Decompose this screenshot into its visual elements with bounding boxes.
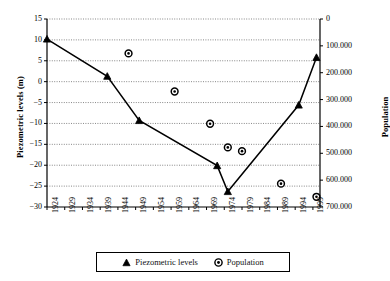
circle-marker-center [227, 146, 230, 149]
right-axis-tick-label: 100.000 [326, 41, 352, 50]
left-axis-tick-label: −25 [11, 181, 42, 190]
circle-marker-center [209, 122, 212, 125]
right-axis-tick-label: 500.000 [326, 148, 352, 157]
left-axis-tick-label: −10 [11, 118, 42, 127]
left-axis-tick-label: −15 [11, 139, 42, 148]
circle-marker-center [127, 52, 130, 55]
x-axis-tick-label: 1999 [316, 197, 325, 213]
x-axis-tick-label: 1924 [51, 197, 60, 213]
triangle-marker [313, 54, 320, 61]
left-axis-tick-label: 10 [11, 35, 42, 44]
data-point-piezometric-levels [104, 73, 111, 80]
left-axis-tick-label: −5 [11, 98, 42, 107]
left-axis-tick-label: −20 [11, 160, 42, 169]
x-axis-tick-label: 1944 [121, 197, 130, 213]
legend-item-piezometric-levels: Piezometric levels [122, 257, 198, 267]
triangle-marker [104, 73, 111, 80]
x-axis-tick-label: 1959 [175, 197, 184, 213]
legend-label-population: Population [227, 257, 264, 267]
circle-marker-center [173, 90, 176, 93]
x-axis-tick-label: 1984 [263, 197, 272, 213]
right-axis-tick-label: 600.000 [326, 175, 352, 184]
circle-marker-icon [214, 258, 223, 267]
data-point-population [125, 50, 132, 57]
triangle-marker [295, 101, 302, 108]
data-point-population [207, 120, 214, 127]
legend-label-piezometric-levels: Piezometric levels [135, 257, 198, 267]
x-axis-tick-label: 1954 [157, 197, 166, 213]
left-axis-tick-label: 5 [11, 56, 42, 65]
x-axis-tick-label: 1994 [299, 197, 308, 213]
x-axis-tick-label: 1979 [246, 197, 255, 213]
chart-legend: Piezometric levels Population [96, 252, 290, 272]
x-axis-tick-label: 1964 [192, 197, 201, 213]
x-axis-tick-label: 1949 [139, 197, 148, 213]
series-line-piezometric-levels [47, 39, 316, 191]
circle-marker-center [241, 150, 244, 153]
legend-item-population: Population [214, 257, 264, 267]
data-point-piezometric-levels [43, 35, 50, 42]
x-axis-tick-label: 1969 [210, 197, 219, 213]
data-point-piezometric-levels [214, 162, 221, 169]
data-point-population [171, 88, 178, 95]
x-axis-tick-label: 1989 [281, 197, 290, 213]
x-axis-tick-label: 1929 [68, 197, 77, 213]
right-axis-tick-label: 0 [326, 14, 330, 23]
data-point-population [239, 148, 246, 155]
data-point-piezometric-levels [313, 54, 320, 61]
x-axis-tick-label: 1974 [228, 197, 237, 213]
right-axis-tick-label: 700.000 [326, 202, 352, 211]
triangle-marker [43, 35, 50, 42]
x-axis-tick-label: 1934 [86, 197, 95, 213]
data-point-population [278, 180, 285, 187]
data-point-piezometric-levels [295, 101, 302, 108]
circle-marker-center [280, 182, 283, 185]
left-axis-tick-label: 0 [11, 77, 42, 86]
left-axis-tick-label: −30 [11, 202, 42, 211]
right-axis-tick-label: 400.000 [326, 121, 352, 130]
triangle-marker-icon [122, 258, 131, 267]
right-axis-tick-label: 200.000 [326, 68, 352, 77]
x-axis-tick-label: 1939 [104, 197, 113, 213]
right-axis-tick-label: 300.000 [326, 95, 352, 104]
data-point-population [224, 144, 231, 151]
triangle-marker [214, 162, 221, 169]
left-axis-tick-label: 15 [11, 14, 42, 23]
